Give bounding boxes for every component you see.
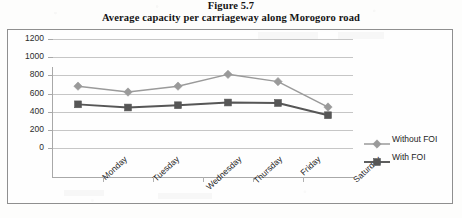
y-axis-label: 600 [10,89,44,98]
y-axis-label: 200 [10,125,44,134]
y-axis-tick-mark [48,39,53,40]
data-point-marker [373,140,381,148]
figure-page: Figure 5.7 Average capacity per carriage… [0,0,462,218]
data-point-marker [74,82,82,90]
data-point-marker [124,88,132,96]
data-point-marker [175,102,182,109]
square-marker-icon [364,153,390,163]
figure-number: Figure 5.7 [0,0,462,11]
figure-title: Average capacity per carriageway along M… [0,12,462,23]
data-point-marker [225,99,232,106]
series-line-without-foi [78,74,328,107]
data-point-marker [275,100,282,107]
diamond-marker-icon [364,135,390,145]
y-axis-label: 0 [10,143,44,152]
data-point-marker [374,159,381,166]
x-axis-tick-mark [153,177,154,182]
legend-label: With FOI [392,152,426,162]
gridline [53,57,353,58]
y-axis-tick-mark [48,57,53,58]
data-point-marker [274,77,282,85]
data-point-marker [324,103,332,111]
data-point-marker [174,82,182,90]
x-axis-tick-mark [103,177,104,182]
x-axis-tick-mark [303,177,304,182]
chart-frame: 020040060080010001200 MondayTuesdayWedne… [7,29,453,204]
x-axis-tick-mark [203,177,204,182]
gridline [53,39,353,40]
y-axis-label: 1200 [10,34,44,43]
legend-label: Without FOI [392,134,437,144]
data-point-marker [325,112,332,119]
data-point-marker [224,70,232,78]
series-line-with-foi [78,103,328,116]
y-axis-label: 1000 [10,52,44,61]
data-point-marker [125,104,132,111]
y-axis-label: 400 [10,107,44,116]
data-series-layer [53,68,353,177]
y-axis-label: 800 [10,70,44,79]
x-axis-tick-mark [253,177,254,182]
data-point-marker [75,101,82,108]
